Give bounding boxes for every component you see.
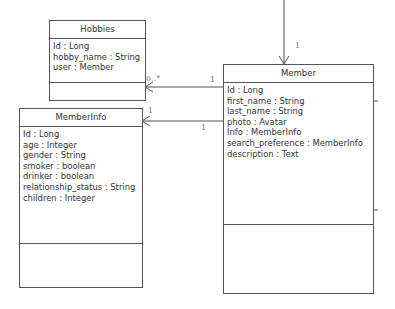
multiplicity-hobbies-end: 0..*: [146, 74, 160, 83]
attribute: user : Member: [53, 62, 145, 73]
attribute: last_name : String: [227, 106, 373, 117]
operations-compartment: [224, 224, 373, 293]
attribute: gender : String: [23, 150, 142, 161]
attribute: Id : Long: [23, 129, 142, 140]
attribute: age : Integer: [23, 140, 142, 151]
attribute: description : Text: [227, 149, 373, 160]
attribute-list: Id : Long hobby_name : String user : Mem…: [50, 39, 145, 73]
class-name: MemberInfo: [20, 109, 142, 127]
attribute: relationship_status : String: [23, 182, 142, 193]
multiplicity-top-member: 1: [295, 41, 300, 50]
attribute: smoker : boolean: [23, 161, 142, 172]
attribute: Id : Long: [53, 41, 145, 52]
attribute: Id : Long: [227, 85, 373, 96]
attribute: first_name : String: [227, 96, 373, 107]
attribute-list: Id : Long first_name : String last_name …: [224, 83, 373, 159]
class-name: Hobbies: [50, 21, 145, 39]
attribute: Info : MemberInfo: [227, 127, 373, 138]
multiplicity-memberinfo-end: 1: [148, 106, 153, 115]
class-memberinfo[interactable]: MemberInfo Id : Long age : Integer gende…: [19, 108, 143, 288]
attribute: search_preference : MemberInfo: [227, 138, 373, 149]
attribute: hobby_name : String: [53, 52, 145, 63]
multiplicity-member-hobbies-end: 1: [210, 75, 215, 84]
attribute: drinker : boolean: [23, 171, 142, 182]
attribute: photo : Avatar: [227, 117, 373, 128]
attribute-list: Id : Long age : Integer gender : String …: [20, 127, 142, 203]
class-name: Member: [224, 65, 373, 83]
attribute: children : Integer: [23, 193, 142, 204]
class-member[interactable]: Member Id : Long first_name : String las…: [223, 64, 374, 294]
operations-compartment: [50, 82, 145, 100]
multiplicity-member-memberinfo-end: 1: [201, 123, 206, 132]
class-hobbies[interactable]: Hobbies Id : Long hobby_name : String us…: [49, 20, 146, 101]
operations-compartment: [20, 243, 142, 287]
